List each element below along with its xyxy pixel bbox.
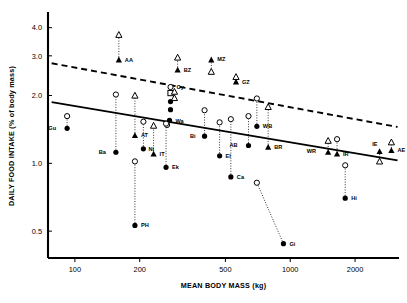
data-point-label: PH [141, 222, 149, 228]
data-point-filled-triangle[interactable] [334, 151, 340, 157]
data-point-label: BR [274, 144, 282, 150]
data-point-filled-circle[interactable] [281, 241, 286, 246]
data-point-filled-circle[interactable] [65, 126, 70, 131]
data-point-open-triangle[interactable] [151, 122, 157, 128]
x-tick-label: 2000 [347, 265, 363, 274]
data-point-open-circle[interactable] [254, 180, 259, 185]
data-point-filled-triangle[interactable] [116, 57, 122, 63]
data-point-label: Hi [351, 195, 357, 201]
data-point-open-triangle[interactable] [325, 138, 331, 144]
data-point-label: MZ [217, 56, 226, 62]
data-point-open-circle[interactable] [254, 96, 259, 101]
data-point-label: Ca [237, 174, 245, 180]
data-point-label: Wa [176, 118, 185, 124]
data-point-filled-circle[interactable] [113, 150, 118, 155]
data-point-filled-circle[interactable] [254, 124, 259, 129]
data-point-label: Gu [48, 125, 56, 131]
data-point-label: Gi [289, 241, 295, 247]
data-point-open-triangle[interactable] [376, 158, 382, 164]
data-point-label: IT [160, 151, 166, 157]
data-point-open-triangle[interactable] [116, 32, 122, 38]
x-tick-label: 500 [219, 265, 231, 274]
chart-canvas: 0.51.02.03.04.010020050010002000MEAN BOD… [0, 0, 407, 303]
data-point-label: AB [229, 142, 237, 148]
dashed-regression-line [52, 63, 398, 127]
data-point-open-circle[interactable] [202, 108, 207, 113]
x-tick-label: 100 [69, 265, 81, 274]
y-tick-label: 3.0 [32, 52, 42, 61]
data-point-label: Oy [177, 84, 185, 90]
data-point-open-triangle[interactable] [265, 104, 271, 110]
data-point-filled-triangle[interactable] [376, 148, 382, 154]
x-tick-label: 1000 [282, 265, 298, 274]
data-point-open-circle[interactable] [65, 114, 70, 119]
y-tick-label: 2.0 [32, 91, 42, 100]
data-point-open-circle[interactable] [217, 120, 222, 125]
data-point-open-circle[interactable] [141, 119, 146, 124]
data-point-open-triangle[interactable] [233, 74, 239, 80]
data-point-open-circle[interactable] [168, 84, 173, 89]
data-point-open-triangle[interactable] [132, 92, 138, 98]
data-point-filled-circle[interactable] [168, 107, 173, 112]
data-point-filled-triangle[interactable] [208, 57, 214, 63]
data-point-open-circle[interactable] [228, 117, 233, 122]
data-point-open-circle[interactable] [246, 114, 251, 119]
y-tick-label: 1.0 [32, 159, 42, 168]
data-point-label: AE [397, 147, 405, 153]
data-point-label: WB [263, 123, 272, 129]
data-point-filled-triangle[interactable] [175, 67, 181, 73]
data-point-open-circle[interactable] [163, 121, 168, 126]
data-point-open-circle[interactable] [113, 92, 118, 97]
data-point-label: Bi [190, 133, 196, 139]
data-point-open-circle[interactable] [132, 159, 137, 164]
data-point-label: AA [125, 57, 133, 63]
data-point-open-circle[interactable] [334, 137, 339, 142]
data-point-filled-circle[interactable] [141, 146, 146, 151]
data-point-label: El [226, 153, 232, 159]
data-point-label: IR [343, 151, 349, 157]
data-point-open-circle[interactable] [343, 163, 348, 168]
data-point-label: WR [307, 148, 316, 154]
data-point-filled-circle[interactable] [343, 196, 348, 201]
data-point-filled-triangle[interactable] [132, 132, 138, 138]
point-connector [257, 183, 284, 244]
data-point-open-triangle[interactable] [208, 69, 214, 75]
scatter-chart: 0.51.02.03.04.010020050010002000MEAN BOD… [0, 0, 407, 303]
y-axis-title: DAILY FOOD INTAKE (% of body mass) [7, 66, 16, 206]
data-point-label: Ni [148, 146, 154, 152]
data-point-filled-circle[interactable] [246, 143, 251, 148]
data-point-open-triangle[interactable] [175, 54, 181, 60]
data-point-label: Ek [172, 164, 180, 170]
data-point-label: BZ [184, 67, 192, 73]
data-point-filled-circle[interactable] [228, 174, 233, 179]
data-point-filled-triangle[interactable] [388, 147, 394, 153]
data-point-filled-circle[interactable] [217, 153, 222, 158]
data-point-label: Ba [99, 149, 107, 155]
data-point-filled-circle[interactable] [132, 223, 137, 228]
data-point-label: GZ [242, 79, 250, 85]
y-tick-label: 0.5 [32, 227, 42, 236]
data-point-filled-circle[interactable] [163, 165, 168, 170]
data-point-filled-triangle[interactable] [265, 144, 271, 150]
x-axis-title: MEAN BODY MASS (kg) [181, 281, 267, 290]
y-tick-label: 4.0 [32, 23, 42, 32]
data-point-open-triangle[interactable] [388, 139, 394, 145]
data-point-label: AT [141, 132, 149, 138]
data-point-filled-circle[interactable] [202, 134, 207, 139]
x-tick-label: 200 [134, 265, 146, 274]
data-point-label: IE [372, 141, 378, 147]
